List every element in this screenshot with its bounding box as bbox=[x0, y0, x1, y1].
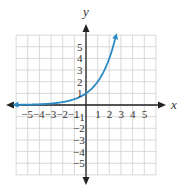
y-tick-label: −3 bbox=[73, 134, 85, 146]
x-tick-label: 1 bbox=[95, 108, 101, 120]
y-tick-label: −1 bbox=[73, 111, 85, 123]
x-tick-label: 4 bbox=[130, 108, 136, 120]
y-axis-down-arrow-icon bbox=[83, 177, 90, 185]
curve-end-arrow-icon bbox=[112, 33, 118, 40]
curve bbox=[12, 33, 118, 108]
y-tick-label: 3 bbox=[77, 64, 83, 76]
x-tick-label: −4 bbox=[33, 108, 45, 120]
y-axis-label: y bbox=[81, 4, 89, 19]
exponential-curve bbox=[18, 39, 115, 105]
x-tick-label: −5 bbox=[21, 108, 33, 120]
x-tick-label: 3 bbox=[118, 108, 124, 120]
x-tick-label: −3 bbox=[45, 108, 57, 120]
y-tick-label: 5 bbox=[77, 41, 83, 53]
x-axis-label: x bbox=[170, 97, 177, 112]
y-tick-label: −5 bbox=[73, 157, 85, 169]
x-axis-left-arrow-icon bbox=[6, 102, 14, 109]
y-tick-label: 4 bbox=[77, 52, 83, 64]
y-tick-label: 1 bbox=[77, 87, 83, 99]
y-axis-up-arrow-icon bbox=[83, 24, 90, 32]
x-tick-label: −2 bbox=[56, 108, 68, 120]
y-tick-label: −4 bbox=[73, 146, 85, 158]
x-tick-label: 2 bbox=[107, 108, 113, 120]
y-tick-label: 2 bbox=[77, 76, 83, 88]
x-tick-label: 5 bbox=[142, 108, 148, 120]
exponential-graph: −5−4−3−2−11234554321−1−2−3−4−5 x y bbox=[0, 0, 184, 190]
x-axis-right-arrow-icon bbox=[158, 102, 166, 109]
y-tick-label: −2 bbox=[73, 122, 85, 134]
